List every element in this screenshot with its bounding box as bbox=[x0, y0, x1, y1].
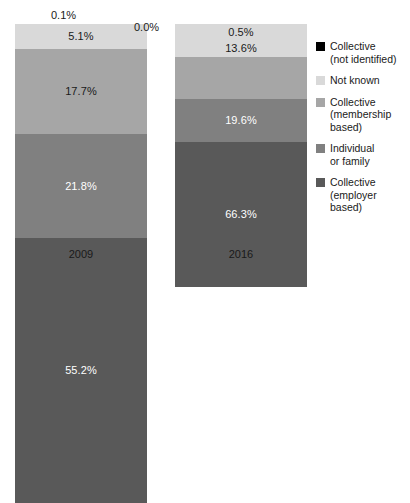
legend-item-label: Collective (membership based) bbox=[330, 96, 391, 134]
legend-item-collective-membership-based[interactable]: Collective (membership based) bbox=[316, 96, 410, 134]
bar-stack-2016: 0.5% 13.6% 19.6% 66.3% bbox=[175, 24, 307, 243]
bar-segment-2016-not-known[interactable]: 0.5% bbox=[175, 24, 307, 40]
bar-segment-2016-collective-employer-based[interactable]: 66.3% bbox=[175, 142, 307, 287]
bar-segment-2009-collective-employer-based[interactable]: 55.2% bbox=[15, 238, 147, 503]
legend-item-collective-employer-based[interactable]: Collective (employer based) bbox=[316, 176, 410, 214]
bar-segment-2016-collective-membership-based[interactable] bbox=[175, 57, 307, 99]
bar-segment-value: 21.8% bbox=[65, 181, 97, 192]
bar-segment-2009-not-known[interactable]: 5.1% bbox=[15, 24, 147, 48]
legend-item-individual-or-family[interactable]: Individual or family bbox=[316, 142, 410, 167]
axis-label-2009: 2009 bbox=[15, 248, 147, 261]
bar-segment-2009-collective-membership-based[interactable]: 17.7% bbox=[15, 49, 147, 134]
bar-segment-value: 13.6% bbox=[225, 43, 257, 54]
legend-swatch-icon bbox=[316, 76, 325, 85]
bar-segment-2016-collective-membership-based-top[interactable]: 13.6% bbox=[175, 40, 307, 56]
bar-segment-value: 5.1% bbox=[68, 31, 93, 42]
legend: Collective (not identified) Not known Co… bbox=[316, 40, 410, 223]
bar-segment-value: 55.2% bbox=[65, 365, 97, 376]
bar-segment-2009-individual-or-family[interactable]: 21.8% bbox=[15, 134, 147, 239]
legend-swatch-icon bbox=[316, 42, 325, 51]
bar-segment-value: 17.7% bbox=[65, 86, 97, 97]
legend-swatch-icon bbox=[316, 98, 325, 107]
legend-item-label: Individual or family bbox=[330, 142, 374, 167]
legend-item-not-known[interactable]: Not known bbox=[316, 74, 410, 87]
legend-item-label: Not known bbox=[330, 74, 380, 87]
bar-segment-value: 0.5% bbox=[228, 27, 253, 38]
legend-swatch-icon bbox=[316, 178, 325, 187]
legend-item-collective-not-identified[interactable]: Collective (not identified) bbox=[316, 40, 410, 65]
legend-item-label: Collective (not identified) bbox=[330, 40, 397, 65]
bar-segment-value: 19.6% bbox=[225, 115, 257, 126]
bar-segment-value: 66.3% bbox=[225, 209, 257, 220]
bar-segment-2016-individual-or-family[interactable]: 19.6% bbox=[175, 99, 307, 142]
legend-item-label: Collective (employer based) bbox=[330, 176, 377, 214]
legend-swatch-icon bbox=[316, 144, 325, 153]
axis-label-2016: 2016 bbox=[175, 248, 307, 261]
bar-stack-2009: 5.1% 17.7% 21.8% 55.2% bbox=[15, 24, 147, 243]
segment-outside-label-2009: 0.1% bbox=[51, 10, 76, 21]
segment-outside-label-2016: 0.0% bbox=[134, 22, 159, 33]
